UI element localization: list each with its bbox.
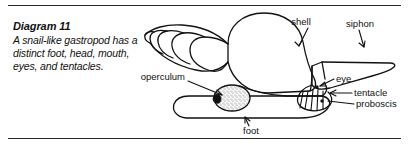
eye-dot-lower (320, 99, 323, 102)
label-siphon: siphon (346, 18, 374, 29)
label-operculum: operculum (141, 71, 185, 82)
shell-spire-whorl-1 (190, 37, 228, 71)
diagram-page: Diagram 11 A snail-like gastropod has a … (0, 0, 409, 146)
tentacle-striations (300, 90, 323, 110)
operculum-leader-line (188, 81, 222, 95)
gastropod-illustration: shell siphon operculum eye tentacle prob… (0, 0, 409, 146)
shell-leader-arrow (295, 40, 302, 46)
eye-dot-upper (315, 85, 318, 88)
shell-spire-outline-bottom (150, 43, 228, 71)
label-eye: eye (336, 73, 351, 84)
label-foot: foot (243, 125, 259, 136)
label-tentacle: tentacle (354, 87, 387, 98)
siphon-inner-fold (322, 62, 325, 79)
label-proboscis: proboscis (356, 98, 397, 109)
label-shell: shell (291, 16, 311, 27)
operculum-notch (213, 95, 221, 104)
